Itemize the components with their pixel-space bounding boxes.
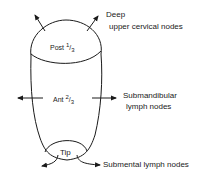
ant-fraction-den: 3 [71,99,74,105]
post-fraction-den: 3 [71,47,74,53]
ant-label: Ant [53,96,64,103]
submental-label: Submental lymph nodes [103,160,189,169]
submandibular-label-line2: lymph nodes [126,102,171,111]
submandibular-label-line1: Submandibular [123,91,177,100]
ant-fraction-num: 2 [65,94,68,100]
post-label: Post [50,44,64,51]
post-fraction-num: 1 [66,42,69,48]
tip-label: Tip [60,148,71,157]
ant-two-thirds-label: Ant 2/3 [53,93,74,107]
deep-nodes-label-line1: Deep [106,10,125,19]
arrow-tip-left [42,155,58,166]
deep-nodes-label-line2: upper cervical nodes [109,22,183,31]
post-third-label: Post 1/3 [50,41,75,55]
arrow-post-right [87,16,98,31]
arrow-post-left [35,15,45,31]
